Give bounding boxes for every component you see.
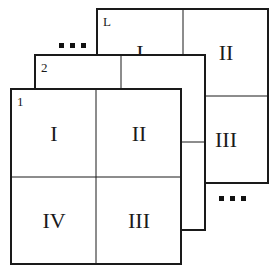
ellipsis-top-icon: [59, 43, 86, 48]
layer-1-quadrant-IV: IV: [42, 208, 65, 233]
ellipsis-bottom-icon: [219, 196, 246, 201]
layer-stack-diagram: L I II III IV 2 I II III IV 1 I II III I…: [0, 0, 276, 272]
layer-2-label: 2: [41, 60, 48, 75]
layer-1-quadrant-III: III: [128, 208, 150, 233]
layer-1-quadrant-I: I: [50, 121, 57, 146]
layer-1: 1 I II III IV: [11, 89, 181, 264]
layer-1-label: 1: [17, 94, 24, 109]
layer-L-label: L: [103, 14, 111, 29]
layer-1-quadrant-II: II: [132, 121, 147, 146]
layer-L-quadrant-II: II: [219, 40, 234, 65]
layer-L-quadrant-III: III: [215, 127, 237, 152]
